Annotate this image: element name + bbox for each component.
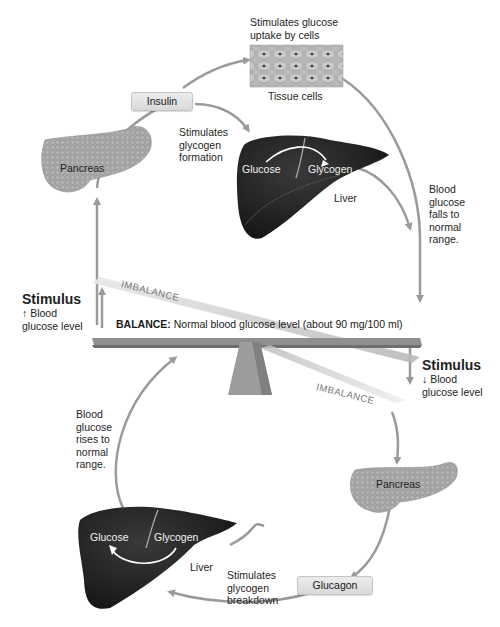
glucagon-box: Glucagon [297,576,373,595]
pancreas-top-label: Pancreas [60,162,104,175]
insulin-box: Insulin [131,92,193,111]
text-line: falls to [429,208,465,221]
arrow-down-icon: ↓ [422,373,427,385]
tissue-cells-image [250,45,343,87]
stimulus-up-title: Stimulus [22,291,83,307]
tissue-caption-line1: Stimulates glucose [250,16,338,29]
tissue-cells-label: Tissue cells [268,90,322,103]
liver-to-normal-arrow [358,168,410,228]
text-line: Blood [76,408,112,421]
liver-top-glycogen: Glycogen [308,163,352,176]
liver-top-label: Liver [334,192,357,205]
glucose-falls-label: Blood glucose falls to normal range. [429,183,465,246]
text-line: glycogen [227,582,278,595]
text-line: glucose [429,196,465,209]
text-line: breakdown [227,594,278,607]
liver-bottom-glucose: Glucose [90,531,129,544]
pancreas-bottom-label: Pancreas [376,478,420,491]
liver-to-balance-arrow [116,358,175,508]
text-line: Blood [430,373,457,385]
stimulus-down-title: Stimulus [422,357,483,373]
text-line: range. [76,458,112,471]
liver-top-image [237,135,389,238]
balance-bold: BALANCE: [116,318,171,330]
text-line: normal [429,221,465,234]
text-line: Stimulates [227,569,278,582]
text-line: glycogen [179,139,228,152]
text-line: Stimulates [179,126,228,139]
text-line: normal [76,446,112,459]
text-line: rises to [76,433,112,446]
balance-text: Normal blood glucose level (about 90 mg/… [171,318,403,330]
text-line: Blood [429,183,465,196]
glucose-rises-label: Blood glucose rises to normal range. [76,408,112,471]
text-line: range. [429,233,465,246]
liver-bottom-label: Liver [190,561,213,574]
arrow-up-icon: ↑ [22,307,27,319]
text-line: glucose level [22,320,83,333]
to-pancreas-arrow [392,412,398,462]
liver-bottom-image [78,507,237,609]
text-line: glucose level [422,386,483,399]
glycogen-breakdown-label: Stimulates glycogen breakdown [227,569,278,607]
insulin-to-tissue-arrow [183,60,248,88]
glycogen-formation-label: Stimulates glycogen formation [179,126,228,164]
stimulus-up: Stimulus ↑ Blood glucose level [22,291,83,332]
tissue-caption: Stimulates glucose uptake by cells [250,16,338,41]
tissue-to-balance-arrow [343,79,420,300]
text-line: Blood [30,307,57,319]
liver-top-glucose: Glucose [242,163,281,176]
stimulus-down: Stimulus ↓ Blood glucose level [422,357,483,398]
text-line: glucose [76,421,112,434]
liver-bottom-glycogen: Glycogen [154,531,198,544]
text-line: formation [179,151,228,164]
tissue-caption-line2: uptake by cells [250,29,338,42]
balance-label: BALANCE: Normal blood glucose level (abo… [116,318,403,330]
